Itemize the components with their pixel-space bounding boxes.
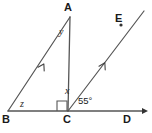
segment-ac <box>68 17 70 111</box>
vertex-label-d: D <box>123 114 131 125</box>
arrowhead-d <box>142 108 148 114</box>
vertex-label-a: A <box>64 2 72 13</box>
angle-label-z: z <box>20 99 24 109</box>
angle-label-55-degrees: 55° <box>78 96 92 106</box>
vertex-label-b: B <box>2 114 10 125</box>
vertex-label-e: E <box>115 13 122 24</box>
angle-label-x: x <box>65 86 69 96</box>
vertex-label-c: C <box>63 114 71 125</box>
angle-label-y: y <box>59 27 63 37</box>
right-angle-mark-c <box>57 101 67 111</box>
geometry-figure: A E B C D y x z 55° <box>0 0 152 133</box>
